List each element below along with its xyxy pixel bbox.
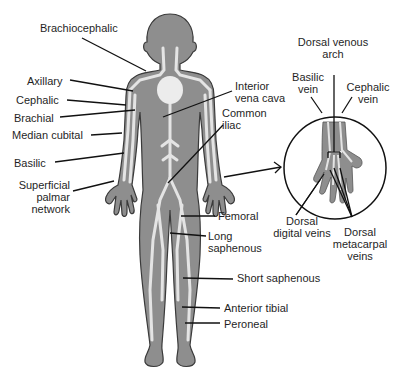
label-dorsal-metacarpal-veins: Dorsal metacarpal veins xyxy=(328,226,392,262)
label-common-iliac: Common iliac xyxy=(222,107,267,131)
label-brachiocephalic: Brachiocephalic xyxy=(40,22,118,34)
label-axillary: Axillary xyxy=(27,75,62,87)
heart xyxy=(157,76,183,104)
label-dorsal-venous-arch: Dorsal venous arch xyxy=(288,36,378,60)
label-long-saphenous: Long saphenous xyxy=(208,230,262,254)
label-peroneal: Peroneal xyxy=(224,318,268,330)
label-basilic: Basilic xyxy=(14,157,46,169)
venous-system-diagram: Brachiocephalic Axillary Cephalic Brachi… xyxy=(0,0,398,382)
label-short-saphenous: Short saphenous xyxy=(237,272,320,284)
label-superficial-palmar-network: Superficial palmar network xyxy=(10,179,70,215)
label-anterior-tibial: Anterior tibial xyxy=(224,302,288,314)
label-interior-vena-cava: Interior vena cava xyxy=(235,80,285,104)
label-basilic-vein: Basilic vein xyxy=(284,71,332,95)
label-brachial: Brachial xyxy=(14,112,54,124)
body-figure xyxy=(106,14,235,367)
label-femoral: Femoral xyxy=(218,210,258,222)
label-cephalic-vein: Cephalic vein xyxy=(340,81,396,105)
label-cephalic: Cephalic xyxy=(16,94,59,106)
label-median-cubital: Median cubital xyxy=(12,129,83,141)
